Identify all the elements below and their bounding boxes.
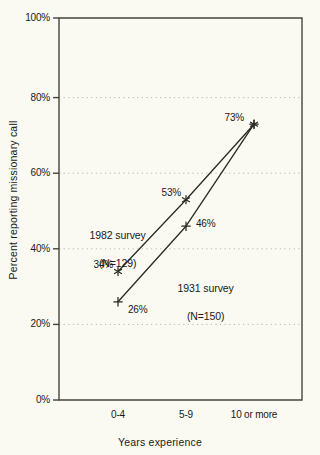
data-label-1982-5-9: 53% xyxy=(151,188,181,198)
series-annotation-1982-n: (N=129) xyxy=(99,257,137,269)
series-annotation-1931-name: 1931 survey xyxy=(178,282,234,294)
series-annotation-1982-name: 1982 survey xyxy=(90,229,146,241)
x-tick-label-0-4: 0-4 xyxy=(92,410,144,420)
x-tick-label-5-9: 5-9 xyxy=(160,410,212,420)
y-axis-title: Percent reporting missionary call xyxy=(7,121,19,280)
x-tick-label-10-or-more: 10 or more xyxy=(215,410,293,420)
series-annotation-1931: 1931 survey (N=150) xyxy=(146,268,254,337)
data-label-1982-10-or-more: 73% xyxy=(214,113,244,123)
y-axis-title-wrap: Percent reporting missionary call xyxy=(0,0,26,400)
series-annotation-1931-n: (N=150) xyxy=(187,310,225,322)
data-label-1931-5-9: 46% xyxy=(196,219,226,229)
x-axis-title: Years experience xyxy=(0,437,320,448)
chart-figure: 100% 80% 60% 40% 20% 0% Percent reportin… xyxy=(0,0,320,455)
